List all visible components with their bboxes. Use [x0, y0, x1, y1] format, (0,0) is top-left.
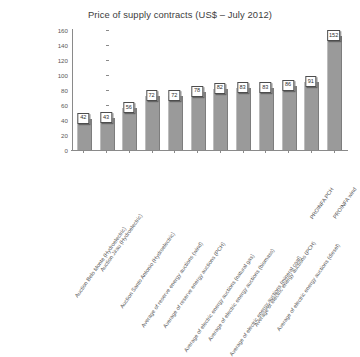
- bar-value-label: 152: [327, 30, 341, 41]
- bar-group: 83: [259, 30, 272, 150]
- bar-group: 43: [100, 30, 113, 150]
- bar-group: 86: [282, 30, 295, 150]
- plot-area: 4243567272788283838691152: [72, 30, 345, 150]
- y-tick-label: 40: [42, 117, 68, 124]
- bar-group: 72: [168, 30, 181, 150]
- x-tick-label: Auction Belo Monte (Hydroelectric): [123, 156, 177, 229]
- x-tick-label-text: Auction Santo Antonio (Hydroelectric): [118, 231, 175, 309]
- x-tick-mark: [106, 150, 107, 153]
- bar-value-label: 43: [100, 112, 111, 123]
- y-tick-label: 140: [42, 42, 68, 49]
- bar: [236, 88, 251, 150]
- y-tick-label: 160: [42, 27, 68, 34]
- x-tick-label: Average of electric energy auctions (bio…: [270, 156, 339, 251]
- x-tick-label: Auction Santo Antonio (Hydroelectric): [171, 156, 228, 234]
- bar: [282, 86, 297, 151]
- bar-group: 42: [77, 30, 90, 150]
- x-tick-mark: [197, 150, 198, 153]
- x-tick-label-text: Average of electric energy auctions (bio…: [206, 247, 275, 342]
- bar-value-label: 82: [214, 83, 225, 94]
- x-tick-mark: [220, 150, 221, 153]
- bar-value-label: 86: [282, 80, 293, 91]
- x-tick-mark: [174, 150, 175, 153]
- bar-value-label: 91: [305, 76, 316, 87]
- bar: [168, 96, 183, 150]
- bar-value-label: 56: [123, 102, 134, 113]
- y-tick-label: 20: [42, 132, 68, 139]
- bar-group: 83: [236, 30, 249, 150]
- bar: [213, 89, 228, 151]
- x-axis-line: [71, 150, 348, 151]
- bar-group: 152: [327, 30, 340, 150]
- bar-group: 72: [145, 30, 158, 150]
- bar: [304, 82, 319, 150]
- x-tick-label-text: Auction Jirau (Hydroelectric): [99, 213, 144, 273]
- bar-group: 82: [213, 30, 226, 150]
- bar-value-label: 83: [260, 82, 271, 93]
- bar-group: 56: [122, 30, 135, 150]
- bar: [259, 88, 274, 150]
- x-tick-mark: [152, 150, 153, 153]
- bar-value-label: 72: [146, 90, 157, 101]
- bar-value-label: 42: [78, 113, 89, 124]
- bar-value-label: 72: [169, 90, 180, 101]
- x-tick-mark: [288, 150, 289, 153]
- y-tick-label: 120: [42, 57, 68, 64]
- x-tick-label-text: Auction Belo Monte (Hydroelectric): [74, 226, 128, 299]
- y-tick-label: 80: [42, 87, 68, 94]
- x-tick-mark: [129, 150, 130, 153]
- x-tick-mark: [265, 150, 266, 153]
- bar: [145, 96, 160, 150]
- bar: [327, 36, 342, 150]
- x-tick-mark: [83, 150, 84, 153]
- bar: [191, 92, 206, 151]
- bar-group: 91: [304, 30, 317, 150]
- y-axis-ticks: 020406080100120140160: [38, 0, 68, 274]
- bar: [122, 108, 137, 150]
- x-tick-mark: [243, 150, 244, 153]
- x-tick-label: Auction Jirau (Hydroelectric): [139, 156, 184, 216]
- bar-group: 78: [191, 30, 204, 150]
- y-tick-label: 0: [42, 147, 68, 154]
- bar-value-label: 78: [191, 86, 202, 97]
- x-tick-mark: [334, 150, 335, 153]
- y-tick-label: 60: [42, 102, 68, 109]
- bar-value-label: 83: [237, 82, 248, 93]
- y-tick-label: 100: [42, 72, 68, 79]
- x-tick-mark: [311, 150, 312, 153]
